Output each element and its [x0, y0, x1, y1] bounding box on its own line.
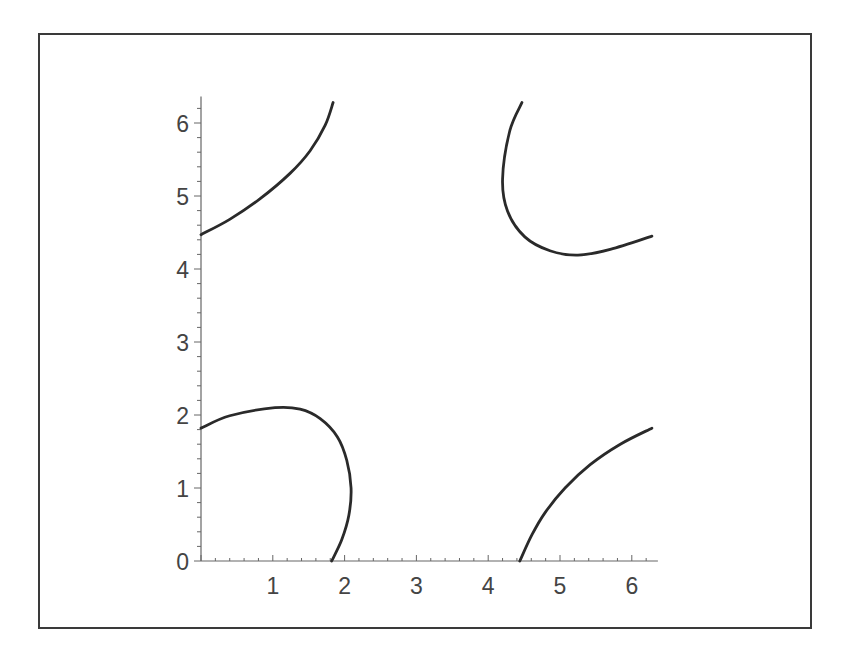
- x-tick-label: 2: [338, 573, 351, 599]
- curve-top-left: [201, 103, 333, 235]
- x-tick-label: 3: [410, 573, 423, 599]
- x-tick-label: 1: [266, 573, 279, 599]
- curve-bottom-left: [201, 407, 351, 561]
- curve-top-right: [503, 103, 652, 256]
- tick-labels: 1234560123456: [176, 111, 638, 599]
- y-tick-label: 6: [176, 111, 189, 137]
- y-tick-label: 5: [176, 184, 189, 210]
- y-tick-label: 2: [176, 403, 189, 429]
- x-tick-label: 6: [625, 573, 638, 599]
- curves: [201, 103, 652, 561]
- y-tick-label: 4: [176, 257, 189, 283]
- implicit-plot: 1234560123456: [0, 0, 845, 662]
- axes: [194, 97, 658, 561]
- y-tick-label: 1: [176, 476, 189, 502]
- x-tick-label: 4: [482, 573, 495, 599]
- x-tick-label: 5: [554, 573, 567, 599]
- curve-bottom-right: [520, 428, 652, 561]
- y-tick-label: 3: [176, 330, 189, 356]
- y-tick-label: 0: [176, 549, 189, 575]
